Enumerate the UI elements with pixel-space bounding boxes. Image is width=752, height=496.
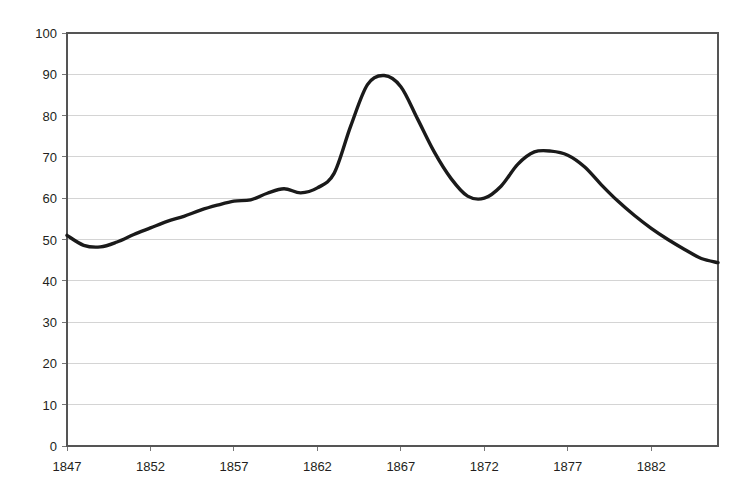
y-tick-label-60: 60 [43,191,57,206]
y-tick-label-70: 70 [43,150,57,165]
y-tick-label-0: 0 [50,439,57,454]
x-axis-ticks-group: 18471852185718621867187218771882 [53,446,666,474]
y-tick-label-50: 50 [43,233,57,248]
gridlines-group [67,74,718,404]
line-chart: 0102030405060708090100 18471852185718621… [0,0,752,496]
y-tick-label-100: 100 [35,26,57,41]
chart-container: 0102030405060708090100 18471852185718621… [0,0,752,496]
y-tick-label-90: 90 [43,67,57,82]
x-tick-label-1852: 1852 [136,459,165,474]
y-tick-label-30: 30 [43,315,57,330]
y-tick-label-10: 10 [43,398,57,413]
y-tick-label-80: 80 [43,109,57,124]
x-tick-label-1877: 1877 [553,459,582,474]
x-tick-label-1882: 1882 [637,459,666,474]
x-tick-label-1847: 1847 [53,459,82,474]
x-tick-label-1857: 1857 [219,459,248,474]
x-tick-label-1872: 1872 [470,459,499,474]
x-tick-label-1862: 1862 [303,459,332,474]
y-tick-label-20: 20 [43,356,57,371]
x-tick-label-1867: 1867 [386,459,415,474]
y-axis-ticks-group: 0102030405060708090100 [35,26,67,454]
series-group [67,75,718,262]
y-tick-label-40: 40 [43,274,57,289]
data-series-line [67,75,718,262]
